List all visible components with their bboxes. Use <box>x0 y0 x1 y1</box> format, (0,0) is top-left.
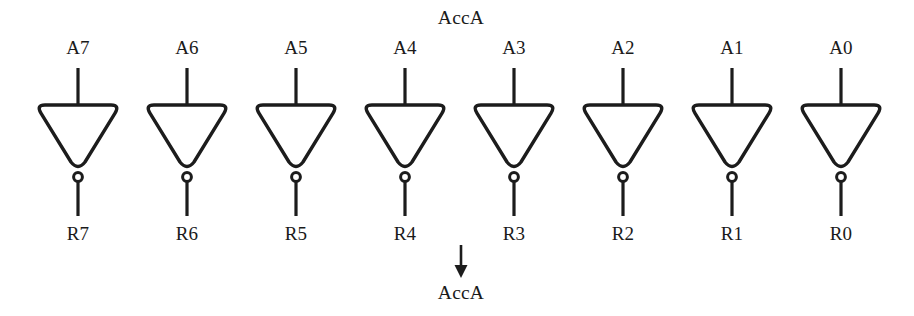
gate-inversion-bubble <box>292 173 301 182</box>
gate-triangle-body <box>366 105 444 167</box>
inverter-gate <box>693 68 771 216</box>
inverter-gate <box>148 68 226 216</box>
gate-input-label: A7 <box>38 38 118 57</box>
gates-group <box>39 68 880 216</box>
circuit-schematic <box>0 0 914 316</box>
gate-inversion-bubble <box>510 173 519 182</box>
gate-inversion-bubble <box>837 173 846 182</box>
gate-input-label: A5 <box>256 38 336 57</box>
inverter-gate <box>584 68 662 216</box>
inverter-gate <box>802 68 880 216</box>
gate-inversion-bubble <box>74 173 83 182</box>
inverter-gate <box>475 68 553 216</box>
gate-input-label: A4 <box>365 38 445 57</box>
gate-output-label: R4 <box>365 224 445 243</box>
gate-triangle-body <box>148 105 226 167</box>
gate-output-label: R7 <box>38 224 118 243</box>
gate-inversion-bubble <box>619 173 628 182</box>
inverter-gate <box>39 68 117 216</box>
gate-triangle-body <box>39 105 117 167</box>
inverter-gate <box>366 68 444 216</box>
gate-triangle-body <box>802 105 880 167</box>
gate-triangle-body <box>693 105 771 167</box>
gate-inversion-bubble <box>728 173 737 182</box>
gate-input-label: A2 <box>583 38 663 57</box>
gate-inversion-bubble <box>401 173 410 182</box>
gate-input-label: A6 <box>147 38 227 57</box>
gate-input-label: A0 <box>801 38 881 57</box>
flow-arrow-head <box>455 265 468 278</box>
gate-output-label: R2 <box>583 224 663 243</box>
gate-inversion-bubble <box>183 173 192 182</box>
gate-output-label: R5 <box>256 224 336 243</box>
top-bus-label: AccA <box>401 8 521 28</box>
gate-triangle-body <box>475 105 553 167</box>
gate-output-label: R0 <box>801 224 881 243</box>
flow-arrow-group <box>455 245 468 278</box>
bottom-bus-label: AccA <box>401 283 521 303</box>
gate-triangle-body <box>257 105 335 167</box>
inverter-gate <box>257 68 335 216</box>
gate-output-label: R1 <box>692 224 772 243</box>
gate-triangle-body <box>584 105 662 167</box>
inverter-bank-diagram: AccA A7A6A5A4A3A2A1A0 R7R6R5R4R3R2R1R0 A… <box>0 0 914 316</box>
gate-output-label: R3 <box>474 224 554 243</box>
gate-output-label: R6 <box>147 224 227 243</box>
gate-input-label: A3 <box>474 38 554 57</box>
gate-input-label: A1 <box>692 38 772 57</box>
